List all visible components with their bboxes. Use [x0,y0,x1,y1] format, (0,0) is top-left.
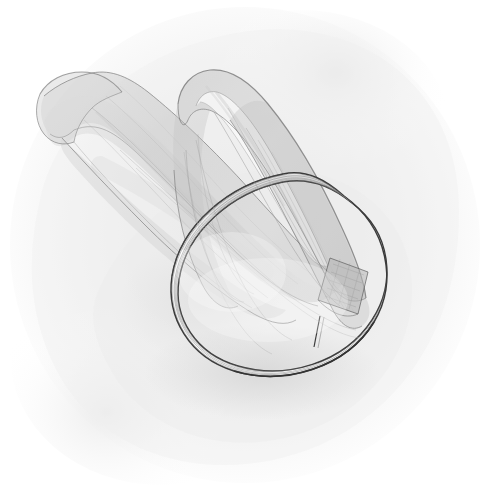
sketch-canvas [0,0,490,499]
pencil-drawing [0,0,490,499]
